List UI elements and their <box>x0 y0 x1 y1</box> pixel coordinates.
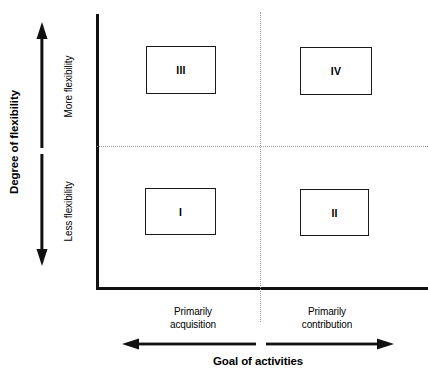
quadrant-label-iv: IV <box>331 65 341 77</box>
x-axis-label-primarily-acquisition: Primarily acquisition <box>133 306 253 331</box>
y-axis-label-more-flexibility: More flexibility <box>63 32 74 142</box>
quadrant-label-i: I <box>179 206 182 218</box>
x-axis-label-right-line1: Primarily <box>267 306 387 319</box>
y-axis-double-arrow-icon <box>33 22 51 266</box>
quadrant-label-iii: III <box>176 64 185 76</box>
x-axis-left-arrow-icon <box>122 338 256 350</box>
y-axis-title: Degree of flexibility <box>8 82 20 202</box>
x-axis-line <box>96 287 428 290</box>
x-axis-label-right-line2: contribution <box>267 319 387 332</box>
y-axis-label-less-flexibility: Less flexibility <box>63 157 74 267</box>
quadrant-box-i[interactable]: I <box>145 188 216 235</box>
x-axis-label-left-line1: Primarily <box>133 306 253 319</box>
x-axis-title: Goal of activities <box>158 355 358 367</box>
vertical-divider-line <box>260 12 261 322</box>
y-axis-line <box>96 14 99 290</box>
quadrant-box-ii[interactable]: II <box>300 189 369 236</box>
quadrant-label-ii: II <box>331 207 337 219</box>
quadrant-box-iii[interactable]: III <box>146 46 216 94</box>
x-axis-label-primarily-contribution: Primarily contribution <box>267 306 387 331</box>
quadrant-box-iv[interactable]: IV <box>300 47 372 95</box>
horizontal-divider-line <box>97 146 428 147</box>
x-axis-right-arrow-icon <box>266 338 394 350</box>
x-axis-label-left-line2: acquisition <box>133 319 253 332</box>
quadrant-diagram: Degree of flexibility More flexibility L… <box>0 0 428 378</box>
